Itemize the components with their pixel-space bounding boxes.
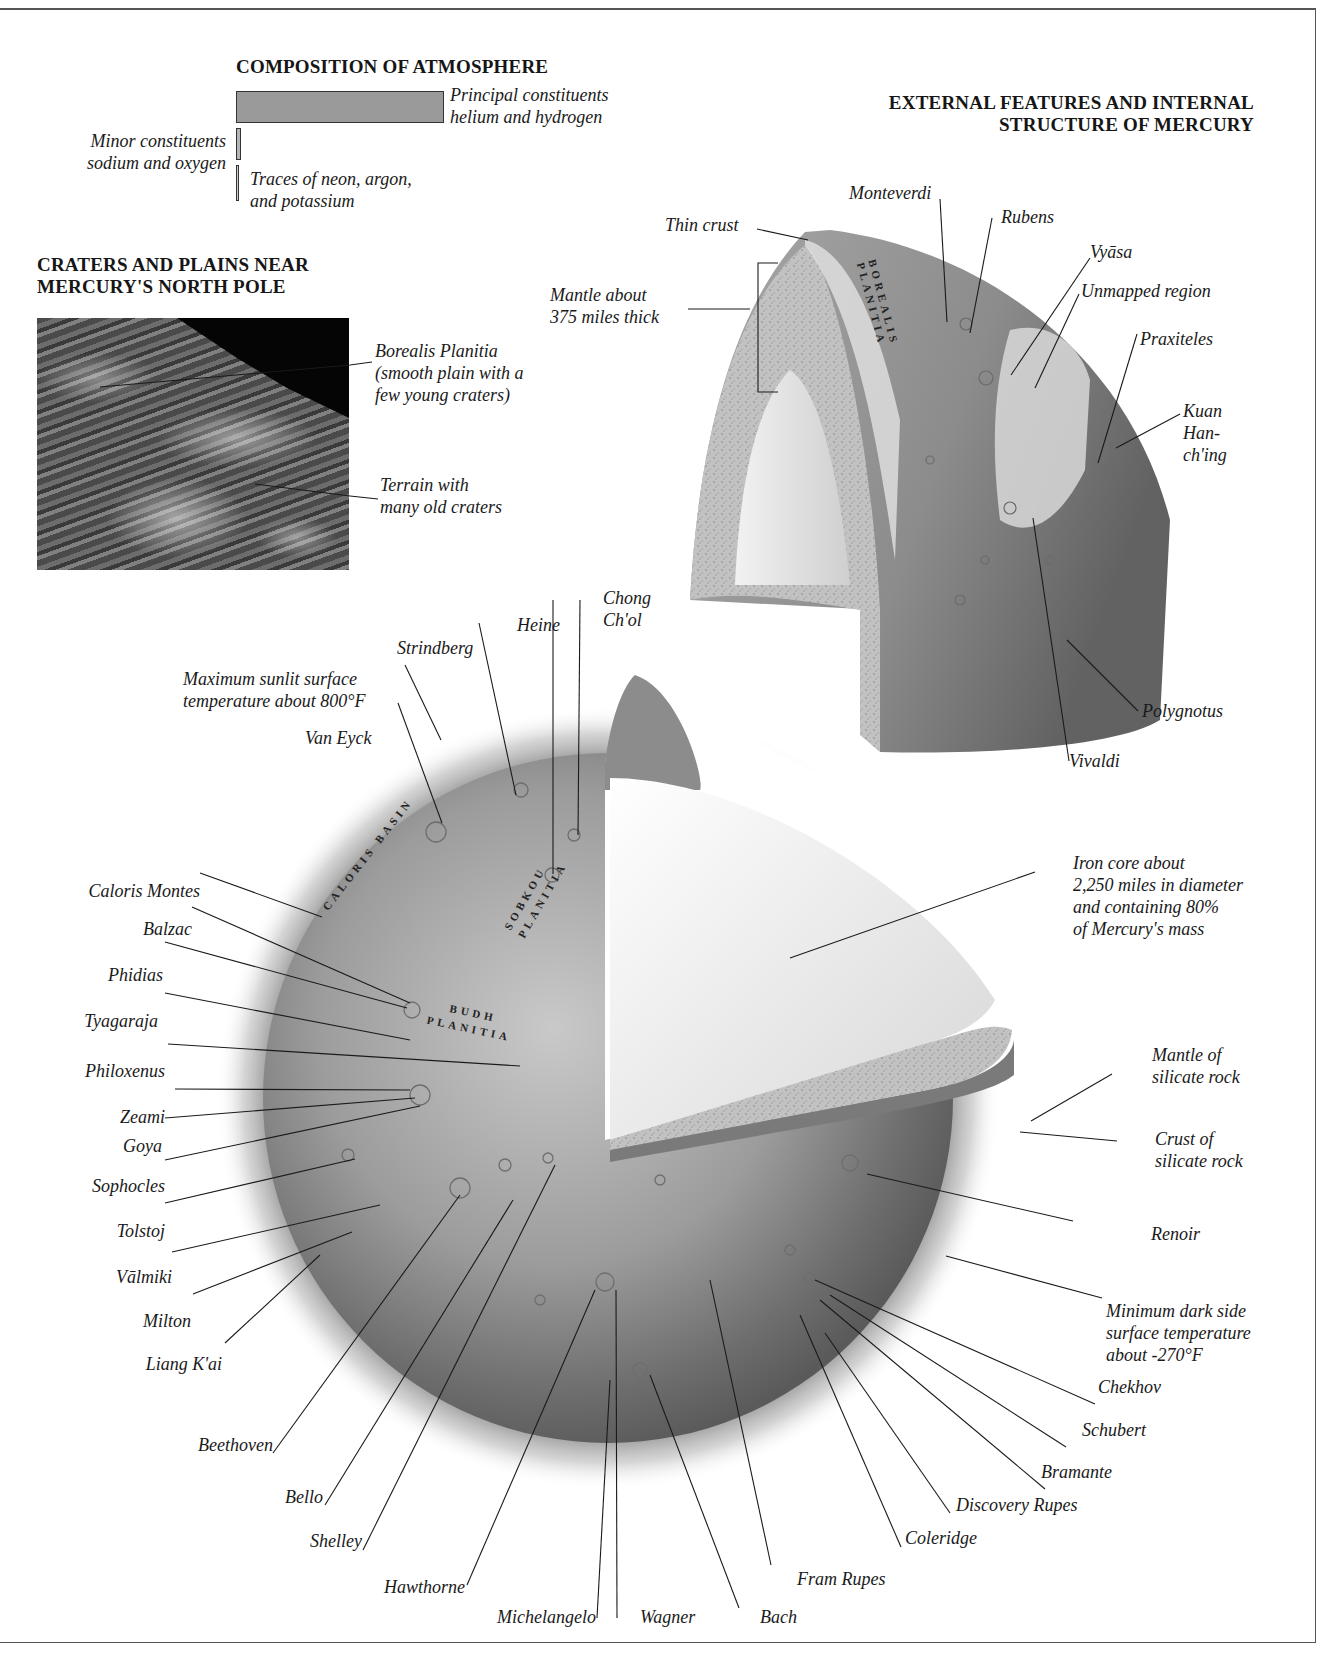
label-monteverdi: Monteverdi	[849, 182, 931, 204]
label-unmapped-region: Unmapped region	[1081, 280, 1211, 302]
label-goya: Goya	[0, 1135, 162, 1157]
label-caloris-montes: Caloris Montes	[0, 880, 200, 902]
label-max-temperature: Maximum sunlit surfacetemperature about …	[183, 668, 366, 712]
label-renoir: Renoir	[1151, 1223, 1200, 1245]
label-kuan-han-ching: KuanHan-ch'ing	[1183, 400, 1227, 466]
label-vivaldi: Vivaldi	[1069, 750, 1120, 772]
cutaway-segment	[690, 230, 1170, 753]
label-mantle-silicate: Mantle ofsilicate rock	[1152, 1044, 1240, 1088]
label-strindberg: Strindberg	[397, 637, 473, 659]
label-rubens: Rubens	[1001, 206, 1054, 228]
label-iron-core: Iron core about2,250 miles in diameteran…	[1073, 852, 1243, 940]
label-tolstoj: Tolstoj	[0, 1220, 165, 1242]
label-coleridge: Coleridge	[905, 1527, 977, 1549]
label-philoxenus: Philoxenus	[0, 1060, 165, 1082]
label-thin-crust: Thin crust	[665, 214, 739, 236]
label-bach: Bach	[760, 1606, 797, 1628]
label-schubert: Schubert	[1082, 1419, 1146, 1441]
label-milton: Milton	[0, 1310, 191, 1332]
label-michelangelo: Michelangelo	[0, 1606, 596, 1628]
label-vyasa: Vyāsa	[1090, 241, 1132, 263]
label-wagner: Wagner	[640, 1606, 695, 1628]
label-praxiteles: Praxiteles	[1140, 328, 1213, 350]
label-polygnotus: Polygnotus	[1142, 700, 1223, 722]
label-chong-chol: ChongCh'ol	[603, 587, 651, 631]
label-heine: Heine	[517, 614, 560, 636]
label-fram-rupes: Fram Rupes	[797, 1568, 886, 1590]
label-min-temperature: Minimum dark sidesurface temperatureabou…	[1106, 1300, 1251, 1366]
label-mantle-thickness: Mantle about375 miles thick	[550, 284, 659, 328]
label-chekhov: Chekhov	[1098, 1376, 1161, 1398]
label-bello: Bello	[0, 1486, 323, 1508]
label-bramante: Bramante	[1041, 1461, 1112, 1483]
label-crust-silicate: Crust ofsilicate rock	[1155, 1128, 1243, 1172]
cutaway-title: EXTERNAL FEATURES AND INTERNALSTRUCTURE …	[820, 92, 1254, 136]
label-van-eyck: Van Eyck	[305, 727, 371, 749]
label-hawthorne: Hawthorne	[0, 1576, 465, 1598]
label-sophocles: Sophocles	[0, 1175, 165, 1197]
label-discovery-rupes: Discovery Rupes	[956, 1494, 1077, 1516]
label-valmiki: Vālmiki	[0, 1266, 172, 1288]
label-liang-kai: Liang K'ai	[0, 1353, 222, 1375]
label-tyagaraja: Tyagaraja	[0, 1010, 158, 1032]
label-beethoven: Beethoven	[0, 1434, 273, 1456]
label-zeami: Zeami	[0, 1106, 165, 1128]
illustration-art	[0, 0, 1340, 1662]
label-phidias: Phidias	[0, 964, 163, 986]
label-shelley: Shelley	[0, 1530, 362, 1552]
label-balzac: Balzac	[0, 918, 192, 940]
